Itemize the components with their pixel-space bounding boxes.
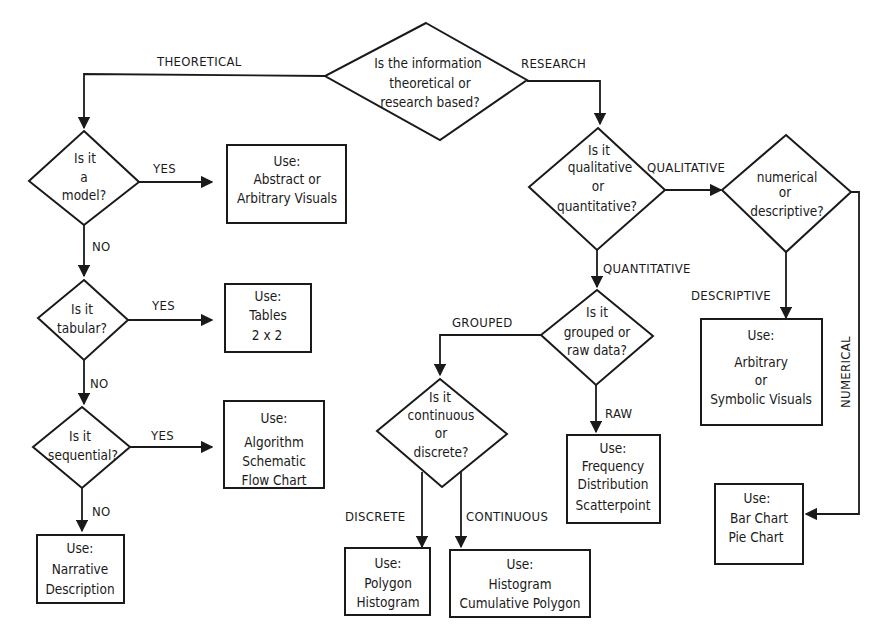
decision-text: Is it xyxy=(74,150,96,166)
result-polygon: Use: Polygon Histogram xyxy=(345,548,430,615)
result-text: Use: xyxy=(67,540,94,556)
decision-text: sequential? xyxy=(48,447,118,463)
result-tables: Use: Tables 2 x 2 xyxy=(225,284,311,352)
label-research: RESEARCH xyxy=(521,56,586,71)
result-frequency: Use: Frequency Distribution Scatterpoint xyxy=(567,435,660,523)
result-text: 2 x 2 xyxy=(252,327,282,343)
decision-grouped: Is it grouped or raw data? xyxy=(541,290,653,385)
decision-text: quantitative? xyxy=(557,198,637,214)
flowchart-canvas: THEORETICAL RESEARCH YES NO YES NO YES N… xyxy=(0,0,884,644)
decision-text: or xyxy=(779,184,791,200)
label-sequential-yes: YES xyxy=(150,428,174,443)
label-continuous: CONTINUOUS xyxy=(466,509,548,524)
result-text: Distribution xyxy=(578,476,649,492)
decision-text: raw data? xyxy=(567,342,627,358)
label-descriptive: DESCRIPTIVE xyxy=(691,288,771,303)
result-text: Cumulative Polygon xyxy=(460,595,581,611)
decision-text: tabular? xyxy=(57,320,107,336)
flowchart-svg: THEORETICAL RESEARCH YES NO YES NO YES N… xyxy=(0,0,884,644)
result-text: Use: xyxy=(748,327,775,343)
result-text: Pie Chart xyxy=(728,529,783,545)
label-model-no: NO xyxy=(92,239,111,254)
edge-research xyxy=(527,81,600,124)
label-tabular-no: NO xyxy=(90,376,109,391)
label-model-yes: YES xyxy=(152,161,176,176)
decision-text: descriptive? xyxy=(750,203,824,219)
decision-text: Is it xyxy=(588,142,610,158)
decision-text: continuous xyxy=(408,407,475,423)
result-text: Flow Chart xyxy=(242,472,307,488)
decision-text: or xyxy=(435,425,447,441)
edge-theoretical xyxy=(84,74,325,128)
decision-text: model? xyxy=(62,187,106,203)
decision-text: Is it xyxy=(71,301,93,317)
label-discrete: DISCRETE xyxy=(345,509,406,524)
result-text: Use: xyxy=(261,410,288,426)
result-text: Algorithm xyxy=(244,434,303,450)
decision-text: Is the information xyxy=(374,55,482,71)
result-text: Histogram xyxy=(488,576,551,592)
result-narrative: Use: Narrative Description xyxy=(37,535,124,603)
result-text: Tables xyxy=(248,307,287,323)
result-text: Use: xyxy=(274,153,301,169)
connectors xyxy=(82,74,859,547)
result-text: or xyxy=(755,372,767,388)
label-numerical: NUMERICAL xyxy=(838,336,853,408)
result-text: Arbitrary xyxy=(734,354,788,370)
label-qualitative: QUALITATIVE xyxy=(647,160,725,175)
result-barpie: Use: Bar Chart Pie Chart xyxy=(715,484,803,564)
result-text: Narrative xyxy=(52,561,109,577)
result-arbitrary: Use: Arbitrary or Symbolic Visuals xyxy=(701,319,822,425)
result-text: Symbolic Visuals xyxy=(710,391,812,407)
label-theoretical: THEORETICAL xyxy=(156,54,242,69)
result-text: Use: xyxy=(600,440,627,456)
result-text: Abstract or xyxy=(253,171,320,187)
result-text: Arbitrary Visuals xyxy=(237,190,337,206)
label-grouped: GROUPED xyxy=(452,315,513,330)
result-text: Polygon xyxy=(364,575,412,591)
decision-text: numerical xyxy=(757,169,818,185)
decision-text: theoretical or xyxy=(389,75,470,91)
result-algorithm: Use: Algorithm Schematic Flow Chart xyxy=(224,401,324,488)
label-tabular-yes: YES xyxy=(151,298,175,313)
decision-text: or xyxy=(592,178,604,194)
decision-text: Is it xyxy=(69,428,91,444)
result-text: Use: xyxy=(507,556,534,572)
decision-model: Is it a model? xyxy=(29,131,139,225)
result-text: Scatterpoint xyxy=(576,497,651,513)
decision-text: discrete? xyxy=(414,444,469,460)
label-quantitative: QUANTITATIVE xyxy=(603,261,691,276)
decision-sequential: Is it sequential? xyxy=(33,407,130,488)
decision-contdisc: Is it continuous or discrete? xyxy=(377,379,507,487)
result-text: Use: xyxy=(255,288,282,304)
decision-numdesc: numerical or descriptive? xyxy=(722,135,851,252)
decision-text: qualitative xyxy=(568,159,633,175)
result-text: Use: xyxy=(375,555,402,571)
result-text: Bar Chart xyxy=(730,510,788,526)
result-histogram: Use: Histogram Cumulative Polygon xyxy=(450,550,590,617)
decision-text: Is it xyxy=(586,304,608,320)
result-text: Schematic xyxy=(242,453,306,469)
decision-tabular: Is it tabular? xyxy=(38,280,128,360)
edge-grouped xyxy=(440,335,541,375)
decision-text: grouped or xyxy=(564,324,631,340)
decision-text: Is it xyxy=(429,389,451,405)
result-text: Use: xyxy=(744,490,771,506)
decision-text: research based? xyxy=(380,94,479,110)
result-abstract: Use: Abstract or Arbitrary Visuals xyxy=(227,145,346,223)
label-sequential-no: NO xyxy=(92,504,111,519)
decision-text: a xyxy=(80,169,87,185)
result-text: Frequency xyxy=(582,458,645,474)
result-text: Histogram xyxy=(356,594,419,610)
result-text: Description xyxy=(45,581,114,597)
label-raw: RAW xyxy=(605,406,632,421)
decision-qualquant: Is it qualitative or quantitative? xyxy=(529,128,665,250)
decision-root: Is the information theoretical or resear… xyxy=(325,23,527,140)
